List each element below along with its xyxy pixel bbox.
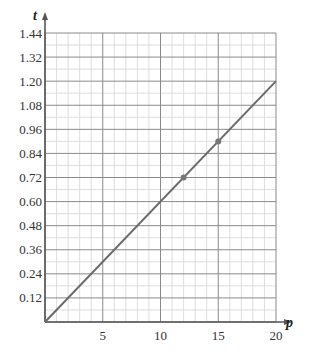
y-tick-label: 0.84 xyxy=(19,146,42,161)
x-tick-label: 20 xyxy=(270,328,283,343)
y-axis-arrow-icon xyxy=(42,12,48,20)
y-tick-label: 1.08 xyxy=(19,98,42,113)
x-axis-label: p xyxy=(285,315,293,330)
y-tick-label: 0.60 xyxy=(19,194,42,209)
data-point xyxy=(181,175,187,181)
data-point xyxy=(215,138,221,144)
x-tick-label: 10 xyxy=(154,328,167,343)
y-tick-label: 1.44 xyxy=(19,26,42,41)
y-axis-label: t xyxy=(33,8,38,23)
y-tick-label: 0.96 xyxy=(19,122,42,137)
line-chart: 0.120.240.360.480.600.720.840.961.081.20… xyxy=(0,0,314,358)
y-tick-label: 1.32 xyxy=(19,50,42,65)
y-tick-label: 1.20 xyxy=(19,74,42,89)
y-tick-label: 0.24 xyxy=(19,266,42,281)
tick-labels: 0.120.240.360.480.600.720.840.961.081.20… xyxy=(19,26,282,344)
x-tick-label: 15 xyxy=(212,328,225,343)
y-tick-label: 0.72 xyxy=(19,170,42,185)
x-tick-label: 5 xyxy=(100,328,107,343)
y-tick-label: 0.36 xyxy=(19,242,42,257)
y-tick-label: 0.48 xyxy=(19,218,42,233)
y-tick-label: 0.12 xyxy=(19,290,42,305)
